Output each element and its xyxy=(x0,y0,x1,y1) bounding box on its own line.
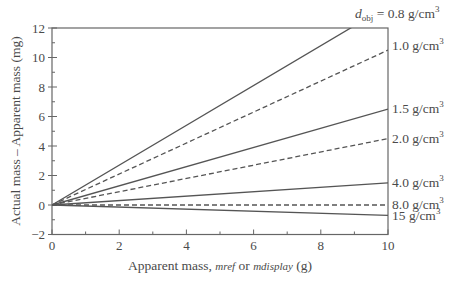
y-tick-label: 10 xyxy=(32,50,45,65)
series-label: 4.0 g/cm3 xyxy=(392,173,444,190)
line-chart: 0246810−2024681012 dobj = 0.8 g/cm31.0 g… xyxy=(0,0,463,285)
series-label: 2.0 g/cm3 xyxy=(392,129,444,146)
y-tick-label: −2 xyxy=(31,227,45,242)
plot-frame xyxy=(52,28,388,235)
chart-container: 0246810−2024681012 dobj = 0.8 g/cm31.0 g… xyxy=(0,0,463,285)
plot-axes: 0246810−2024681012 xyxy=(31,21,394,253)
x-tick-label: 6 xyxy=(250,238,257,253)
series-label: 1.0 g/cm3 xyxy=(392,36,444,53)
series-label: dobj = 0.8 g/cm3 xyxy=(355,4,440,23)
series-line xyxy=(52,6,388,205)
x-axis-label: Apparent mass, mref or mdisplay (g) xyxy=(128,258,312,273)
y-tick-label: 8 xyxy=(39,80,46,95)
y-tick-label: 0 xyxy=(39,198,46,213)
series-line xyxy=(52,183,388,205)
x-tick-label: 8 xyxy=(318,238,325,253)
data-lines xyxy=(52,6,388,215)
series-label: 1.5 g/cm3 xyxy=(392,99,444,116)
y-tick-label: 2 xyxy=(39,168,46,183)
y-tick-label: 6 xyxy=(39,109,46,124)
series-line xyxy=(52,109,388,205)
series-line xyxy=(52,50,388,205)
series-labels: dobj = 0.8 g/cm31.0 g/cm31.5 g/cm32.0 g/… xyxy=(355,4,444,223)
x-tick-label: 10 xyxy=(382,238,395,253)
series-line xyxy=(52,139,388,205)
series-line xyxy=(52,205,388,215)
x-tick-label: 4 xyxy=(183,238,190,253)
x-tick-label: 2 xyxy=(116,238,123,253)
series-label: 15 g/cm3 xyxy=(392,206,441,223)
y-tick-label: 4 xyxy=(39,139,46,154)
x-tick-label: 0 xyxy=(49,238,56,253)
y-tick-label: 12 xyxy=(32,21,45,36)
y-axis-label: Actual mass – Apparent mass (mg) xyxy=(8,36,23,225)
